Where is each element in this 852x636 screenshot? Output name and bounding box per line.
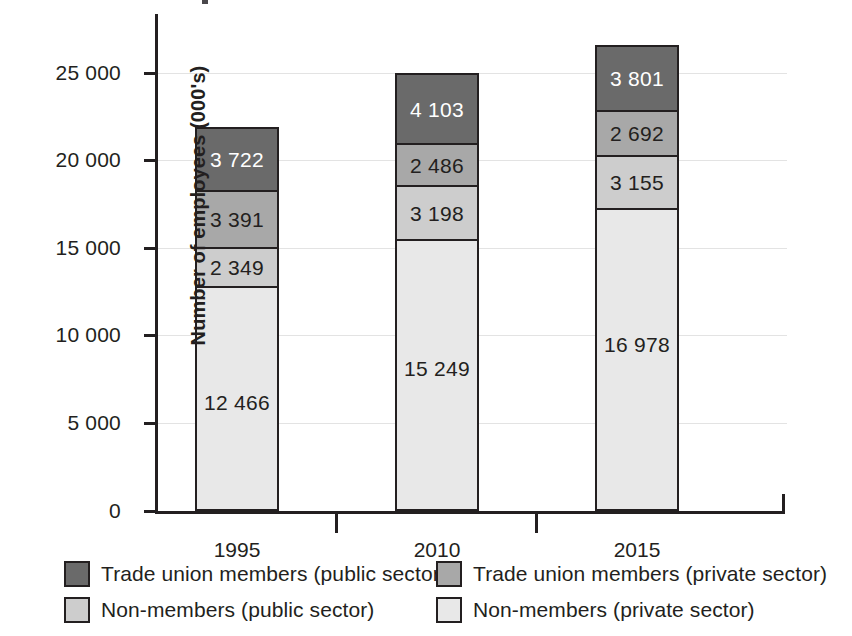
legend-item-nonmem-public[interactable]: Non-members (public sector) xyxy=(64,597,436,623)
stacked-bar-chart: 25 000 20 000 15 000 10 000 5 000 0 3 72… xyxy=(0,0,852,636)
bar-value-label: 3 801 xyxy=(610,68,664,89)
legend-swatch-icon xyxy=(64,561,90,587)
bar-group-2015[interactable]: 3 801 2 692 3 155 16 978 xyxy=(595,45,679,511)
y-axis-title: Number of employees (000's) xyxy=(187,46,210,366)
bar-value-label: 16 978 xyxy=(604,334,670,355)
legend-item-label: Trade union members (private sector) xyxy=(473,562,827,586)
bar-value-label: 3 391 xyxy=(210,209,264,230)
bar-segment-2015-nonmem-private[interactable]: 16 978 xyxy=(595,208,679,511)
legend-swatch-icon xyxy=(436,597,462,623)
bar-value-label: 3 722 xyxy=(210,149,264,170)
legend-item-tu-public[interactable]: Trade union members (public sector) xyxy=(64,561,436,587)
x-tick-2 xyxy=(535,514,538,533)
bar-segment-2010-tu-private[interactable]: 2 486 xyxy=(395,143,479,187)
y-tick-label-25000: 25 000 xyxy=(0,61,121,85)
y-tick-label-10000: 10 000 xyxy=(0,323,121,347)
y-tick-label-0: 0 xyxy=(0,499,121,523)
y-axis-line xyxy=(155,14,158,513)
bar-value-label: 3 155 xyxy=(610,172,664,193)
y-tick-label-5000: 5 000 xyxy=(0,411,121,435)
bar-segment-2015-tu-public[interactable]: 3 801 xyxy=(595,45,679,112)
bar-value-label: 3 198 xyxy=(410,203,464,224)
crop-artifact xyxy=(202,0,208,4)
bar-value-label: 2 486 xyxy=(410,155,464,176)
legend-item-label: Non-members (public sector) xyxy=(101,598,374,622)
bar-value-label: 12 466 xyxy=(204,392,270,413)
chart-legend: Trade union members (public sector) Trad… xyxy=(64,556,844,628)
x-axis-end-tick xyxy=(782,494,785,514)
bar-segment-2010-nonmem-private[interactable]: 15 249 xyxy=(395,239,479,511)
bar-value-label: 2 692 xyxy=(610,123,664,144)
x-axis-line xyxy=(155,511,785,514)
legend-swatch-icon xyxy=(64,597,90,623)
legend-item-nonmem-private[interactable]: Non-members (private sector) xyxy=(436,597,844,623)
bar-value-label: 2 349 xyxy=(210,257,264,278)
bar-segment-2010-nonmem-public[interactable]: 3 198 xyxy=(395,185,479,241)
y-tick-label-15000: 15 000 xyxy=(0,236,121,260)
legend-item-label: Non-members (private sector) xyxy=(473,598,755,622)
y-tick-label-20000: 20 000 xyxy=(0,148,121,172)
bar-segment-2015-nonmem-public[interactable]: 3 155 xyxy=(595,155,679,210)
bar-value-label: 4 103 xyxy=(410,99,464,120)
legend-swatch-icon xyxy=(436,561,462,587)
legend-item-label: Trade union members (public sector) xyxy=(101,562,447,586)
bar-group-2010[interactable]: 4 103 2 486 3 198 15 249 xyxy=(395,73,479,511)
legend-item-tu-private[interactable]: Trade union members (private sector) xyxy=(436,561,844,587)
bar-value-label: 15 249 xyxy=(404,358,470,379)
x-tick-1 xyxy=(335,514,338,533)
plot-area: 25 000 20 000 15 000 10 000 5 000 0 3 72… xyxy=(155,14,787,514)
bar-segment-2015-tu-private[interactable]: 2 692 xyxy=(595,110,679,157)
bar-segment-2010-tu-public[interactable]: 4 103 xyxy=(395,73,479,145)
